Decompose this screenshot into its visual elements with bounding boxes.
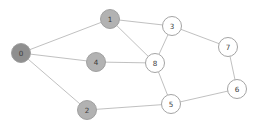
graph-edge-8-5	[158, 72, 167, 95]
graph-node-6[interactable]: 6	[228, 80, 247, 99]
graph-node-label-6: 6	[235, 85, 240, 94]
graph-edge-3-8	[159, 35, 168, 55]
graph-node-5[interactable]: 5	[162, 95, 181, 114]
graph-node-7[interactable]: 7	[219, 38, 238, 57]
graph-edge-5-6	[180, 91, 227, 102]
graph-node-label-2: 2	[85, 106, 90, 115]
graph-edge-1-8	[117, 26, 148, 57]
graph-node-8[interactable]: 8	[146, 54, 165, 73]
graph-edge-6-7	[230, 56, 235, 79]
node-layer: 012345678	[12, 10, 247, 120]
graph-edge-0-2	[28, 59, 80, 104]
graph-node-4[interactable]: 4	[87, 53, 106, 72]
graph-edge-1-3	[119, 20, 162, 25]
graph-node-label-5: 5	[169, 100, 174, 109]
graph-canvas: 012345678	[0, 0, 257, 128]
graph-edge-4-8	[106, 62, 146, 63]
graph-node-label-8: 8	[153, 59, 158, 68]
graph-node-2[interactable]: 2	[78, 101, 97, 120]
graph-node-label-3: 3	[170, 22, 175, 31]
graph-node-label-4: 4	[94, 58, 99, 67]
graph-edge-2-5	[96, 105, 161, 110]
graph-node-label-0: 0	[19, 49, 24, 58]
graph-edge-0-4	[30, 54, 86, 61]
graph-node-3[interactable]: 3	[163, 17, 182, 36]
graph-node-label-7: 7	[226, 43, 231, 52]
graph-figure: 012345678	[0, 0, 257, 128]
graph-edge-0-1	[30, 22, 101, 49]
graph-node-label-1: 1	[108, 15, 113, 24]
edge-layer	[28, 20, 235, 109]
graph-edge-3-7	[181, 29, 219, 43]
graph-node-1[interactable]: 1	[101, 10, 120, 29]
graph-node-0[interactable]: 0	[12, 44, 31, 63]
